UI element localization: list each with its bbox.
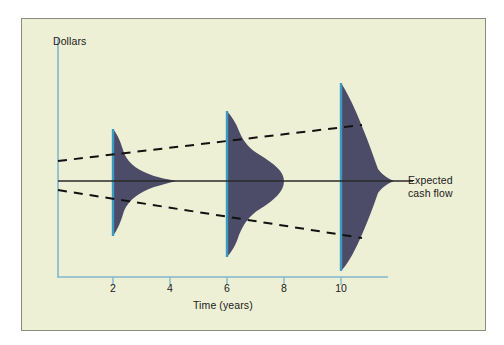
- lower-dispersion-bound-line: [58, 190, 362, 238]
- x-axis-label: Time (years): [193, 299, 253, 311]
- chart-frame: Dollars Time (years) Expectedcash flow 2…: [21, 18, 486, 331]
- figure-root: Dollars Time (years) Expectedcash flow 2…: [0, 0, 504, 345]
- x-tick-label-10: 10: [329, 282, 353, 294]
- annotation-line-2: cash flow: [408, 187, 453, 199]
- x-tick-label-4: 4: [158, 282, 182, 294]
- y-axis-label: Dollars: [53, 35, 86, 47]
- x-tick-label-8: 8: [272, 282, 296, 294]
- upper-dispersion-bound-line: [58, 125, 362, 161]
- distribution-year-2: [113, 129, 176, 236]
- annotation-line-1: Expected: [408, 174, 453, 186]
- distribution-year-6: [227, 111, 284, 257]
- expected-cash-flow-annotation: Expectedcash flow: [408, 174, 453, 199]
- x-tick-label-2: 2: [101, 282, 125, 294]
- x-tick-label-6: 6: [215, 282, 239, 294]
- distribution-year-10: [341, 83, 394, 271]
